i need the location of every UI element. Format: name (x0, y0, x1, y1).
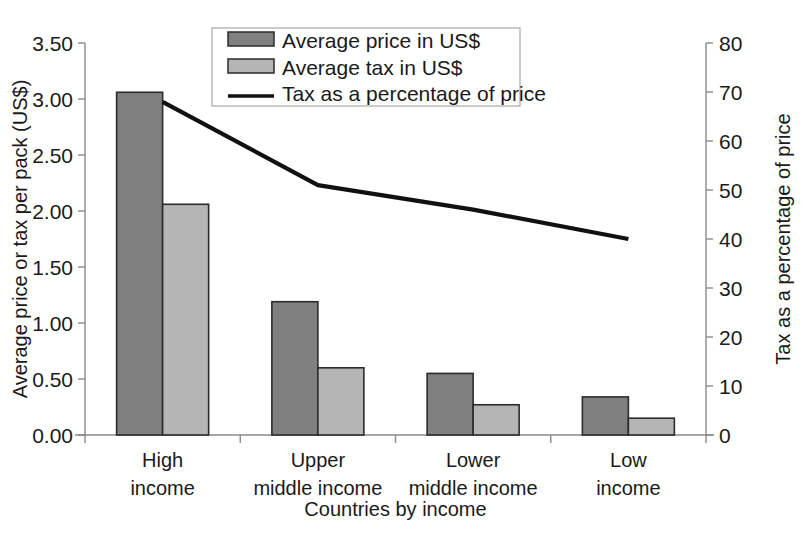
left-axis-tick-label: 2.50 (32, 144, 73, 167)
right-axis-tick-label: 10 (719, 375, 742, 398)
category-label: High (142, 449, 183, 471)
left-axis-tick-label: 3.50 (32, 32, 73, 55)
chart-container: 0.000.501.001.502.002.503.003.50 0102030… (0, 0, 811, 536)
left-axis-tick-label: 0.50 (32, 368, 73, 391)
left-axis-title: Average price or tax per pack (US$) (9, 80, 31, 399)
bar-average-tax (473, 405, 519, 435)
legend-swatch-price (228, 32, 274, 46)
x-axis-title: Countries by income (304, 498, 486, 520)
bar-average-price (117, 92, 163, 435)
category-label: income (596, 477, 660, 499)
legend-label: Tax as a percentage of price (282, 82, 546, 105)
left-axis-tick-label: 1.00 (32, 312, 73, 335)
grouped-bar-line-chart: 0.000.501.001.502.002.503.003.50 0102030… (0, 0, 811, 536)
bar-average-tax (628, 418, 674, 435)
category-label: income (130, 477, 194, 499)
legend-label: Average tax in US$ (282, 56, 463, 79)
right-axis-tick-label: 30 (719, 277, 742, 300)
right-axis-tick-label: 80 (719, 32, 742, 55)
category-label: Upper (291, 449, 346, 471)
bar-average-price (427, 373, 473, 435)
chart-legend: Average price in US$Average tax in US$Ta… (212, 28, 546, 106)
left-axis-tick-label: 0.00 (32, 424, 73, 447)
category-label: Low (610, 449, 647, 471)
right-axis-tick-label: 40 (719, 228, 742, 251)
right-axis-tick-label: 0 (719, 424, 731, 447)
bar-average-price (272, 302, 318, 435)
right-axis-tick-label: 70 (719, 81, 742, 104)
right-axis-title: Tax as a percentage of price (772, 113, 794, 364)
right-axis-tick-label: 60 (719, 130, 742, 153)
legend-label: Average price in US$ (282, 29, 480, 52)
right-axis-tick-label: 20 (719, 326, 742, 349)
category-label: Lower (446, 449, 501, 471)
right-axis-tick-label: 50 (719, 179, 742, 202)
left-axis-tick-label: 2.00 (32, 200, 73, 223)
bar-average-price (582, 397, 628, 435)
category-label: middle income (253, 477, 382, 499)
bar-average-tax (163, 204, 209, 435)
left-axis-tick-label: 1.50 (32, 256, 73, 279)
left-axis-tick-label: 3.00 (32, 88, 73, 111)
legend-swatch-tax (228, 59, 274, 73)
category-label: middle income (409, 477, 538, 499)
bar-average-tax (318, 368, 364, 435)
